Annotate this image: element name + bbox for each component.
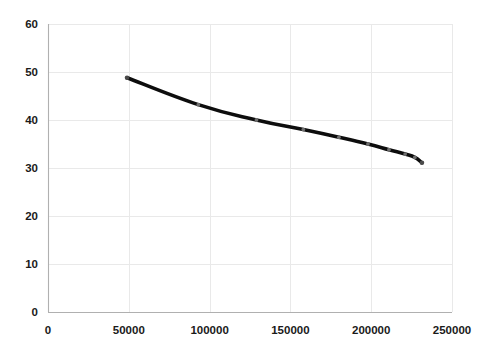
y-axis-tick-label: 20	[25, 210, 38, 222]
data-point-marker	[403, 152, 407, 156]
data-point-marker	[301, 128, 305, 132]
x-axis-tick-label: 0	[45, 324, 51, 336]
chart-container: 0102030405060 05000010000015000020000025…	[0, 0, 482, 352]
data-point-marker	[366, 142, 370, 146]
data-point-marker	[196, 103, 200, 107]
data-point-marker	[420, 160, 425, 165]
x-axis-tick-label: 250000	[433, 324, 471, 336]
data-point-marker	[125, 75, 130, 80]
x-axis-tick-label: 150000	[271, 324, 309, 336]
chart-background	[0, 0, 482, 352]
x-axis-tick-label: 100000	[190, 324, 228, 336]
y-axis-tick-label: 50	[25, 66, 38, 78]
data-point-marker	[413, 156, 417, 160]
data-point-marker	[337, 135, 341, 139]
y-axis-tick-label: 40	[25, 114, 38, 126]
y-axis-tick-label: 0	[32, 306, 38, 318]
data-point-marker	[387, 148, 391, 152]
data-point-marker	[255, 118, 259, 122]
line-chart: 0102030405060 05000010000015000020000025…	[0, 0, 482, 352]
x-axis-tick-label: 50000	[113, 324, 145, 336]
y-axis-tick-label: 10	[25, 258, 38, 270]
y-axis-tick-label: 60	[25, 18, 38, 30]
x-axis-tick-label: 200000	[352, 324, 390, 336]
y-axis-tick-label: 30	[25, 162, 38, 174]
